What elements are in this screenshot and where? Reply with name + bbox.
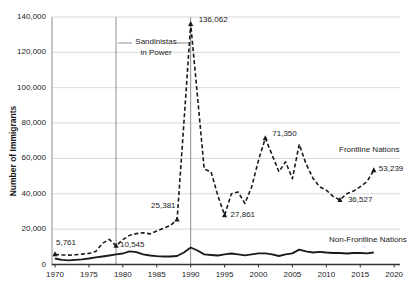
series-line-frontline [55, 24, 374, 255]
immigration-line-chart: Number of Immigrants Sandinistas in Powe… [0, 0, 417, 291]
y-axis-tick-label: 140,000 [0, 12, 46, 22]
data-point-label: 5,761 [56, 238, 76, 247]
y-axis-tick-label: 40,000 [0, 189, 46, 199]
x-axis-tick-label: 2005 [275, 270, 309, 280]
annotation-line-1: Sandinistas [135, 36, 176, 47]
x-axis-tick-label: 1985 [140, 270, 174, 280]
y-axis-tick-label: 100,000 [0, 83, 46, 93]
data-point-marker [263, 135, 268, 140]
sandinistas-annotation: Sandinistas in Power [135, 36, 176, 58]
data-point-label: 71,350 [272, 129, 296, 138]
x-axis-tick-label: 1990 [174, 270, 208, 280]
y-axis-tick-label: 60,000 [0, 153, 46, 163]
data-point-label: 10,545 [120, 240, 144, 249]
x-axis-tick-label: 1995 [208, 270, 242, 280]
y-axis-tick-label: 80,000 [0, 118, 46, 128]
series-label-non-frontline-nations: Non-Frontline Nations [329, 235, 407, 244]
y-axis-tick-label: 20,000 [0, 224, 46, 234]
x-axis-tick-label: 1970 [38, 270, 72, 280]
data-point-label: 53,239 [379, 164, 403, 173]
x-axis-tick-label: 2010 [309, 270, 343, 280]
series-line-non-frontline [55, 248, 374, 261]
data-point-marker [222, 212, 227, 217]
x-axis-tick-label: 1980 [106, 270, 140, 280]
data-point-marker [175, 217, 180, 222]
annotation-line-2: in Power [135, 47, 176, 58]
series-label-frontline-nations: Frontline Nations [339, 145, 399, 154]
x-axis-tick-label: 2000 [242, 270, 276, 280]
x-axis-tick-label: 1975 [72, 270, 106, 280]
data-point-label: 136,062 [199, 15, 228, 24]
data-point-label: 25,381 [151, 201, 175, 210]
y-axis-tick-label: 0 [0, 260, 46, 270]
data-point-marker [371, 167, 376, 172]
data-point-label: 27,861 [231, 210, 255, 219]
y-axis-tick-label: 120,000 [0, 47, 46, 57]
data-point-label: 36,527 [348, 195, 372, 204]
x-axis-tick-label: 2015 [343, 270, 377, 280]
x-axis-tick-label: 2020 [377, 270, 411, 280]
data-point-marker [188, 21, 193, 26]
